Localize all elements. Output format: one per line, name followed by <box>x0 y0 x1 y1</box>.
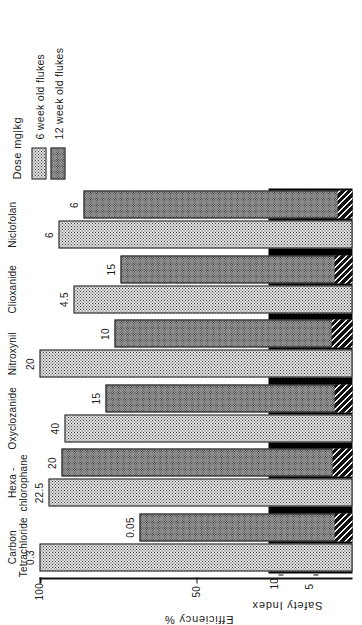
safety-index-tick-label: 5 <box>303 583 314 589</box>
efficiency-tick-50: 50 <box>190 585 201 597</box>
safety-index-bar-niclofolan <box>337 191 352 219</box>
safety-index-bar-hexa-chlorophane <box>332 449 352 477</box>
category-label: Nitroxynil <box>6 321 17 386</box>
bar-niclofolan-6week <box>58 221 352 249</box>
safety-index-tick-label: 10 <box>268 577 279 589</box>
legend-title: Dose mg|kg <box>10 9 22 179</box>
efficiency-tick-100: 100 <box>33 582 44 600</box>
category-label-line: Tetrachloride <box>17 515 28 580</box>
dose-label: 6 <box>68 190 79 220</box>
safety-index-bar-carbon-tetrachloride <box>334 513 352 541</box>
safety-index-tick <box>278 574 283 575</box>
legend-row: 6 week old flukes <box>31 9 46 179</box>
dose-label: 20 <box>24 349 35 379</box>
efficiency-axis-title: Efficiency % <box>164 613 233 625</box>
bar-nitroxynil-12week <box>114 320 352 348</box>
category-label: Oxyclozanide <box>6 386 17 451</box>
legend-label: 6 week old flukes <box>33 53 45 139</box>
safety-index-bar-clioxanide <box>334 255 352 283</box>
bar-carbon-tetrachloride-6week <box>39 543 352 571</box>
dose-label: 0.05 <box>124 512 135 542</box>
dose-label: 6 <box>43 220 54 250</box>
dose-label: 40 <box>49 413 60 443</box>
bar-oxyclozanide-12week <box>105 384 352 412</box>
category-label-line: Nitroxynil <box>6 321 17 386</box>
category-label-line: Oxyclozanide <box>6 386 17 451</box>
dose-label: 15 <box>90 383 101 413</box>
category-label-line: Niclofolan <box>6 192 17 257</box>
category-label-line: Hexa - <box>6 450 17 515</box>
legend-swatch-6week <box>31 147 46 179</box>
chart-legend: Dose mg|kg6 week old flukes12 week old f… <box>10 9 69 179</box>
safety-index-bar-oxyclozanide <box>334 384 352 412</box>
bar-carbon-tetrachloride-12week <box>139 513 352 541</box>
bar-clioxanide-12week <box>120 255 352 283</box>
dose-label: 4.5 <box>58 284 69 314</box>
safety-index-axis-title: Safety Index <box>251 599 322 611</box>
category-label: Clioxanide <box>6 257 17 322</box>
category-label-line: Carbon <box>6 515 17 580</box>
bar-nitroxynil-6week <box>39 350 352 378</box>
dose-label: 15 <box>105 254 116 284</box>
category-label: CarbonTetrachloride <box>6 515 28 580</box>
dose-label: 10 <box>99 319 110 349</box>
legend-label: 12 week old flukes <box>52 47 64 139</box>
bar-niclofolan-12week <box>83 191 352 219</box>
safety-index-bar-nitroxynil <box>331 320 352 348</box>
category-label: Niclofolan <box>6 192 17 257</box>
bar-oxyclozanide-6week <box>64 414 352 442</box>
bar-clioxanide-6week <box>73 285 352 313</box>
safety-index-tick <box>313 574 318 575</box>
category-label-line: Clioxanide <box>6 257 17 322</box>
category-label-line: chlorophane <box>17 450 28 515</box>
legend-row: 12 week old flukes <box>50 9 65 179</box>
category-label: Hexa -chlorophane <box>6 450 28 515</box>
legend-swatch-12week <box>50 147 65 179</box>
bar-hexa-chlorophane-12week <box>61 449 352 477</box>
bar-hexa-chlorophane-6week <box>48 479 352 507</box>
dose-label: 22.5 <box>33 478 44 508</box>
efficiency-axis-mid-tick <box>196 577 198 583</box>
dose-label: 20 <box>46 448 57 478</box>
